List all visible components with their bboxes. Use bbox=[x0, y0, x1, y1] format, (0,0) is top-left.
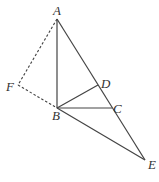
label-D: D bbox=[100, 76, 111, 91]
segment-AF bbox=[18, 19, 57, 85]
label-E: E bbox=[147, 157, 156, 172]
segment-BE bbox=[57, 108, 145, 160]
segment-BD bbox=[57, 85, 98, 108]
label-F: F bbox=[5, 79, 15, 94]
segment-FB bbox=[18, 85, 57, 108]
label-B: B bbox=[52, 108, 60, 123]
label-C: C bbox=[113, 101, 122, 116]
geometry-diagram: A F B D C E bbox=[0, 0, 159, 182]
label-A: A bbox=[52, 3, 61, 18]
